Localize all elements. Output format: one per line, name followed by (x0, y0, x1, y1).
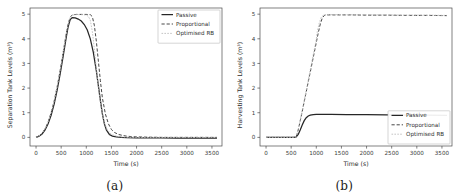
x-tick-label: 2000 (129, 150, 144, 156)
x-tick-label: 1500 (104, 150, 119, 156)
legend-label-passive: Passive (406, 112, 427, 118)
x-tick-label: 500 (56, 150, 67, 156)
separation-tank-panel: 0500100015002000250030003500012345 Passi… (0, 0, 230, 194)
x-tick-label: 0 (34, 150, 38, 156)
y-tick-label: 3 (22, 61, 26, 67)
y-tick-label: 3 (251, 61, 255, 67)
harvesting-tank-panel: 0500100015002000250030003500012345 Passi… (230, 0, 459, 194)
x-tick-label: 1500 (334, 150, 349, 156)
figure-container: 0500100015002000250030003500012345 Passi… (0, 0, 459, 194)
legend-label-passive: Passive (176, 12, 197, 18)
y-tick-label: 4 (22, 36, 26, 42)
legend-b: PassiveProportionalOptimised RB (388, 111, 450, 144)
legend-label-optimised-rb: Optimised RB (176, 30, 214, 37)
x-tick-label: 3500 (434, 150, 449, 156)
y-tick-label: 1 (251, 110, 255, 116)
legend-a: PassiveProportionalOptimised RB (158, 10, 220, 43)
y-tick-label: 2 (251, 85, 255, 91)
x-tick-label: 2500 (155, 150, 170, 156)
y-axis-title: Harvesting Tank Levels (m³) (236, 42, 244, 129)
y-tick-label: 5 (251, 11, 255, 17)
x-tick-label: 500 (285, 150, 296, 156)
legend-label-proportional: Proportional (176, 21, 210, 28)
y-tick-label: 1 (22, 110, 26, 116)
x-tick-label: 1000 (309, 150, 324, 156)
x-tick-label: 0 (264, 150, 268, 156)
legend-label-optimised-rb: Optimised RB (406, 131, 444, 138)
harvesting-tank-chart: 0500100015002000250030003500012345 Passi… (230, 0, 459, 176)
x-tick-label: 3000 (409, 150, 424, 156)
x-tick-label: 1000 (79, 150, 94, 156)
y-tick-label: 0 (22, 134, 26, 140)
y-axis-title: Separation Tank Levels (m³) (6, 42, 14, 128)
y-tick-label: 2 (22, 85, 26, 91)
x-tick-label: 3500 (205, 150, 220, 156)
separation-tank-chart: 0500100015002000250030003500012345 Passi… (0, 0, 230, 176)
panel-caption-a: (a) (0, 179, 230, 193)
y-tick-label: 5 (22, 11, 26, 17)
panel-caption-b: (b) (230, 179, 459, 193)
x-tick-label: 3000 (180, 150, 195, 156)
y-tick-label: 0 (251, 134, 255, 140)
x-axis-title: Time (s) (342, 160, 368, 167)
x-tick-label: 2500 (384, 150, 399, 156)
x-tick-label: 2000 (359, 150, 374, 156)
y-tick-label: 4 (251, 36, 255, 42)
x-axis-title: Time (s) (112, 160, 138, 167)
legend-label-proportional: Proportional (406, 122, 440, 129)
